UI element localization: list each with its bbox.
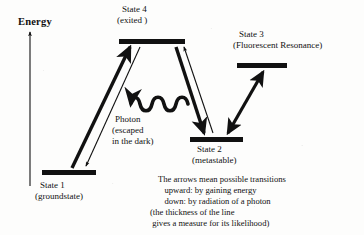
level-bar-state-3 xyxy=(237,63,287,68)
state-3-name: State 3 xyxy=(239,29,264,39)
caption-line-4: (the thickness of the line xyxy=(150,207,234,218)
photon-wave-arrow xyxy=(131,97,188,111)
state-4-name: State 4 xyxy=(122,4,147,14)
caption-line-3: down: by radiation of a photon xyxy=(158,196,271,207)
state-2-name: State 2 xyxy=(197,144,222,154)
state-1-name: State 1 xyxy=(40,180,65,190)
transition-state4-to-state1 xyxy=(86,47,140,166)
level-bar-state-1 xyxy=(42,170,96,175)
state-2-qualifier: (metastable) xyxy=(192,155,236,165)
photon-label-line-1: Photon xyxy=(115,114,141,124)
transition-state2-state3-resonance xyxy=(228,72,263,133)
state-3-qualifier: (Fluorescent Resonance) xyxy=(233,40,322,50)
transition-state1-to-state4 xyxy=(72,47,130,168)
state-1-qualifier: (groundstate) xyxy=(35,191,83,201)
state-4-qualifier: (exited ) xyxy=(117,15,147,25)
photon-label-line-3: in the dark) xyxy=(112,136,153,146)
caption-line-1: The arrows mean possible transitions xyxy=(158,174,286,185)
energy-axis-label: Energy xyxy=(18,16,52,27)
caption-line-5: gives a measure for its likelihood) xyxy=(150,218,269,229)
photon-label-line-2: (escaped xyxy=(112,125,143,135)
transition-state4-to-state2 xyxy=(176,47,204,133)
caption-line-2: upward: by gaining energy xyxy=(158,185,257,196)
level-bar-state-2 xyxy=(190,137,243,142)
level-bar-state-4 xyxy=(119,39,185,44)
